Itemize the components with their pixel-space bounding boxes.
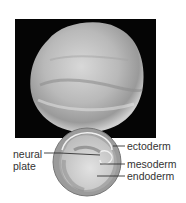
label-neural: neural	[13, 148, 42, 160]
label-endoderm: endoderm	[127, 170, 174, 182]
cross-section-diagram	[53, 128, 121, 196]
label-ectoderm: ectoderm	[127, 140, 171, 152]
label-neural-plate: neural plate	[13, 148, 42, 172]
label-plate: plate	[13, 160, 42, 172]
embryo-photo-sphere	[30, 22, 143, 132]
label-mesoderm: mesoderm	[127, 158, 177, 170]
